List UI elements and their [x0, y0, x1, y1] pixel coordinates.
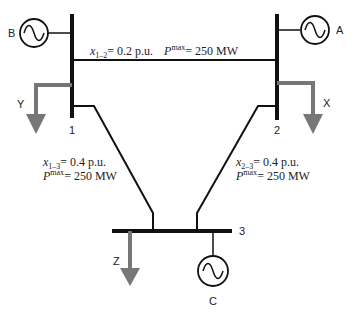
load-x-label: X	[323, 97, 331, 109]
load-x-arrow-icon	[277, 83, 323, 134]
generator-c-label: C	[209, 295, 217, 307]
bus-3-label: 3	[239, 225, 245, 237]
generator-a-icon	[301, 16, 329, 44]
power-system-diagram: B A C Y X Z 1 2 3 x1–2= 0.2 p.u. Pmax= 2…	[0, 0, 355, 321]
load-y-arrow-icon	[26, 85, 72, 134]
load-z-arrow-icon	[120, 231, 140, 286]
load-y-label: Y	[17, 98, 25, 110]
line-2-3-pmax: Pmax= 250 MW	[235, 168, 311, 183]
line-1-2-params: x1–2= 0.2 p.u. Pmax= 250 MW	[89, 43, 239, 60]
load-z-label: Z	[113, 255, 120, 267]
line-1-3-pmax: Pmax= 250 MW	[42, 168, 118, 183]
generator-a-label: A	[336, 24, 344, 36]
generator-b-label: B	[8, 27, 15, 39]
bus-1-label: 1	[69, 124, 75, 136]
generator-b-icon	[20, 19, 48, 47]
bus-2-label: 2	[274, 124, 280, 136]
generator-c-icon	[198, 256, 228, 286]
